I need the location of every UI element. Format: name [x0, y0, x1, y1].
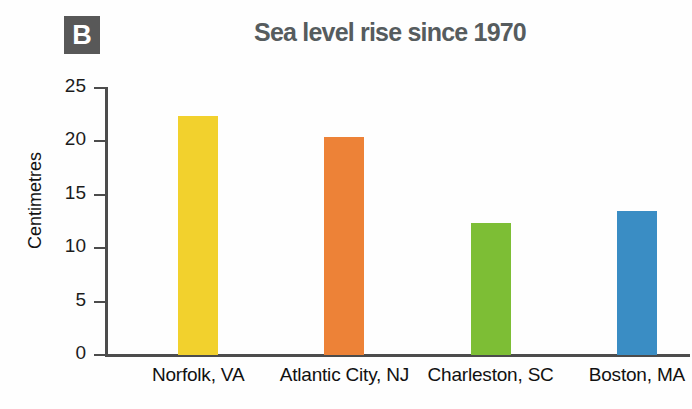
bar-0	[178, 116, 218, 355]
y-axis-title: Centimetres	[25, 106, 46, 296]
category-label-3: Boston, MA	[537, 364, 692, 386]
chart-figure: B Sea level rise since 1970 Centimetres …	[0, 0, 692, 409]
plot-area	[105, 88, 690, 355]
bar-2	[471, 223, 511, 355]
bar-1	[324, 137, 364, 355]
bar-3	[617, 211, 657, 355]
y-tick-label: 25	[30, 75, 86, 97]
panel-label-b: B	[64, 16, 100, 54]
y-tick-label: 0	[30, 342, 86, 364]
chart-title: Sea level rise since 1970	[150, 18, 630, 47]
